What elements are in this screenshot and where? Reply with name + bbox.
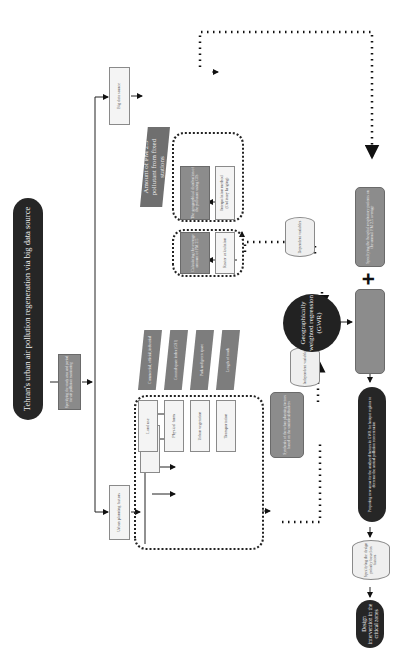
- factor-land-use-box: Land use: [138, 400, 158, 452]
- flowchart-canvas: Tehran's urban air pollution regeneratio…: [0, 0, 407, 652]
- big-data-source-box: Big data source: [109, 67, 130, 125]
- gis-distribution-box: The geographical distribution of the pol…: [180, 166, 210, 220]
- proposal-node: Proposing new areas for the analyzed fac…: [358, 387, 386, 522]
- raster-calculation-box: Raster calculation: [215, 232, 235, 274]
- plus-symbol: +: [357, 272, 381, 286]
- independent-variables-cylinder: Independent variables: [290, 347, 320, 387]
- design-intervention-node: Design intervention in the critical zone…: [356, 600, 384, 648]
- study-area-text: Specifying the study area and period for…: [66, 355, 74, 409]
- synthesis-box: Synthesis of the urban planning factors …: [270, 392, 304, 458]
- hospital-patients-box: Specifying the hospital respiratory pati…: [355, 187, 385, 267]
- relationships-box: [355, 289, 385, 374]
- factor-urban-vegetation-box: Urban vegetation: [190, 400, 210, 452]
- title-text: Tehran's urban air pollution regeneratio…: [23, 207, 32, 411]
- average-pm25-box: Calculating the average amount of PM 2.5: [180, 232, 210, 274]
- factor-transportation-box: Transportation: [216, 400, 236, 452]
- design-priority-cylinder: Specifying the design priority based on …: [352, 540, 390, 580]
- gwr-circle: Geographically weighted regression (GWR): [283, 294, 341, 352]
- urban-planning-factors-box: Urban planning factors: [109, 485, 130, 540]
- factor-physical-form-box: Physical form: [164, 400, 184, 452]
- connector-lines: [0, 0, 407, 652]
- study-area-box: Specifying the study area and period for…: [58, 354, 81, 410]
- title-node: Tehran's urban air pollution regeneratio…: [13, 198, 43, 420]
- interpolation-method-box: Interpolation method (Ordinary kriging): [215, 166, 235, 220]
- dependent-variables-cylinder: Dependent variables: [285, 217, 315, 257]
